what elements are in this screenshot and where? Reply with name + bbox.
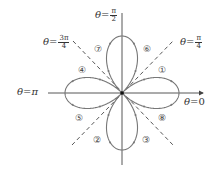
marker-6: ⑥ — [143, 45, 151, 54]
origin-point — [120, 91, 124, 95]
denominator: 4 — [195, 43, 201, 50]
equals-sign: = — [49, 36, 57, 47]
zero-value: 0 — [198, 96, 204, 107]
marker-1: ① — [158, 66, 166, 75]
label-theta-pi-over-2: θ=π2 — [95, 8, 117, 23]
fraction: 3π4 — [58, 35, 69, 50]
label-theta-pi: θ=π — [17, 87, 38, 97]
fraction: π4 — [195, 35, 202, 50]
fraction: π2 — [110, 8, 117, 23]
marker-4: ④ — [78, 66, 86, 75]
denominator: 4 — [61, 43, 67, 50]
marker-8: ⑧ — [158, 114, 166, 123]
marker-5: ⑤ — [75, 114, 83, 123]
equals-sign: = — [186, 36, 194, 47]
label-theta-0: θ=0 — [184, 97, 205, 107]
equals-sign: = — [101, 9, 109, 20]
marker-2: ② — [93, 136, 101, 145]
label-theta-3pi-over-4: θ=3π4 — [43, 35, 69, 50]
label-theta-pi-over-4: θ=π4 — [180, 35, 202, 50]
pi-value: π — [31, 86, 38, 97]
marker-3: ③ — [142, 136, 150, 145]
denominator: 2 — [110, 16, 116, 23]
marker-7: ⑦ — [94, 45, 102, 54]
